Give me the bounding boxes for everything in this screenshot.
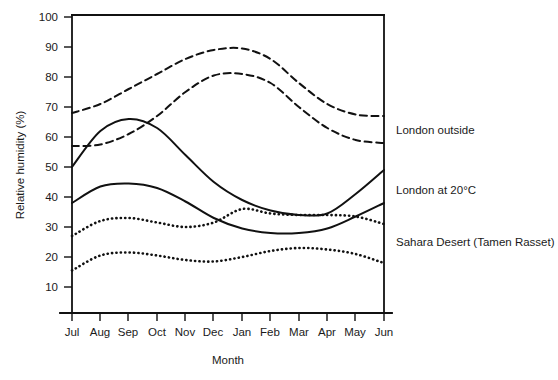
x-tick-label-sep: Sep (118, 326, 138, 338)
x-tick-label-jan: Jan (233, 326, 252, 338)
y-tick-label-40: 40 (45, 191, 58, 203)
y-axis-ticks (64, 17, 72, 287)
x-axis-tick-labels: Jul Aug Sep Oct Nov Dec Jan Feb Mar Apr … (65, 326, 394, 338)
chart-canvas: 100 90 80 70 60 50 40 30 20 10 Relative … (0, 0, 558, 380)
x-tick-label-apr: Apr (318, 326, 336, 338)
y-tick-label-60: 60 (45, 131, 58, 143)
y-tick-label-100: 100 (39, 11, 58, 23)
x-tick-label-jun: Jun (375, 326, 394, 338)
series-curve-4 (72, 209, 384, 236)
x-tick-label-jul: Jul (65, 326, 80, 338)
y-axis-tick-labels: 100 90 80 70 60 50 40 30 20 10 (39, 11, 58, 293)
humidity-chart: 100 90 80 70 60 50 40 30 20 10 Relative … (0, 0, 558, 380)
series-label-sahara-desert: Sahara Desert (Tamen Rasset) (396, 236, 555, 248)
x-tick-label-nov: Nov (175, 326, 196, 338)
y-axis-title: Relative humidity (%) (14, 111, 26, 220)
plot-frame (60, 15, 392, 313)
series-labels: London outside London at 20°C Sahara Des… (396, 124, 555, 248)
y-tick-label-70: 70 (45, 101, 58, 113)
y-tick-label-10: 10 (45, 281, 58, 293)
series-curve-0 (72, 48, 384, 116)
y-tick-label-30: 30 (45, 221, 58, 233)
x-tick-label-feb: Feb (260, 326, 280, 338)
data-curves (72, 48, 384, 271)
x-axis-title: Month (212, 354, 244, 366)
x-tick-label-mar: Mar (289, 326, 309, 338)
x-tick-label-may: May (344, 326, 366, 338)
x-axis-ticks (72, 313, 384, 321)
series-label-london-at-20c: London at 20°C (396, 184, 476, 196)
series-curve-5 (72, 248, 384, 271)
y-tick-label-80: 80 (45, 71, 58, 83)
series-label-london-outside: London outside (396, 124, 475, 136)
x-tick-label-aug: Aug (90, 326, 110, 338)
y-tick-label-20: 20 (45, 251, 58, 263)
x-tick-label-oct: Oct (148, 326, 167, 338)
y-tick-label-90: 90 (45, 41, 58, 53)
y-tick-label-50: 50 (45, 161, 58, 173)
x-tick-label-dec: Dec (203, 326, 224, 338)
